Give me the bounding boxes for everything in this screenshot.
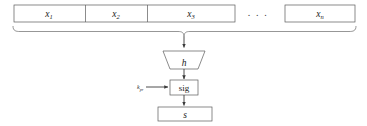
diagram-canvas: x1 x2 x3 . . . xn h kpr (0, 0, 367, 126)
signature-output-node: s (158, 107, 212, 121)
private-key-label: kpr (137, 84, 144, 92)
message-block-row: x1 x2 x3 . . . xn (14, 5, 355, 22)
hash-function-node: h (163, 51, 205, 69)
output-label: s (183, 110, 187, 120)
message-blocks-ellipsis: . . . (248, 7, 269, 18)
sig-label: sig (179, 83, 190, 93)
underbrace (13, 26, 356, 37)
hash-label: h (182, 58, 187, 68)
private-key-input: kpr (137, 84, 168, 92)
sign-operation-node: sig (170, 80, 198, 95)
